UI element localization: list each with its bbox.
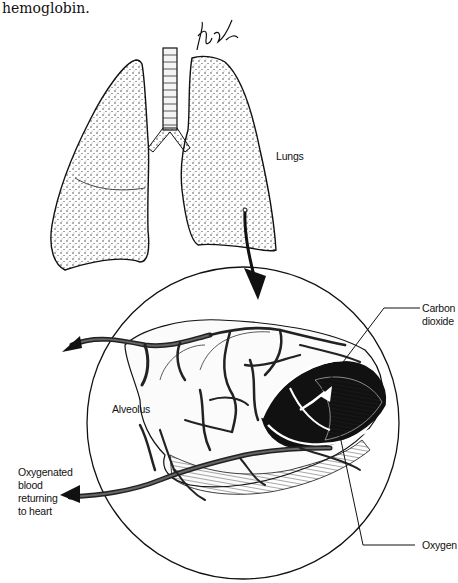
label-oxygenated-blood: Oxygenated blood returning to heart <box>18 466 73 518</box>
right-lung <box>181 56 276 250</box>
incoming-vessel-arrow <box>62 336 82 352</box>
trachea <box>148 48 190 152</box>
label-alveolus: Alveolus <box>112 403 150 416</box>
label-carbon-dioxide: Carbon dioxide <box>422 302 455 328</box>
label-oxygen: Oxygen <box>422 539 457 552</box>
label-lungs: Lungs <box>276 150 304 163</box>
artist-signature <box>197 20 238 50</box>
left-lung <box>51 60 149 270</box>
